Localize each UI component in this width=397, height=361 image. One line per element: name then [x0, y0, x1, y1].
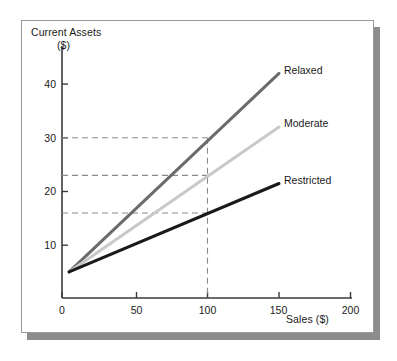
- y-tick-marks: [62, 84, 68, 245]
- x-tick-label-200: 200: [336, 304, 365, 316]
- series-line-moderate: [69, 127, 279, 272]
- series-line-relaxed: [69, 73, 279, 272]
- y-tick-label-20: 20: [34, 185, 56, 197]
- series-group: [69, 73, 279, 272]
- series-label-relaxed: Relaxed: [284, 64, 323, 76]
- y-axis-title: Current Assets: [31, 26, 101, 38]
- series-label-moderate: Moderate: [284, 117, 328, 129]
- figure-container: Current Assets ($) Sales ($) 10 20 30 40…: [0, 0, 397, 361]
- y-axis-units-label: ($): [57, 39, 70, 51]
- y-tick-label-30: 30: [34, 132, 56, 144]
- x-tick-label-50: 50: [124, 304, 149, 316]
- y-tick-label-10: 10: [34, 239, 56, 251]
- x-tick-label-100: 100: [193, 304, 222, 316]
- x-tick-label-0: 0: [52, 304, 72, 316]
- series-line-restricted: [69, 184, 279, 272]
- series-label-restricted: Restricted: [284, 174, 331, 186]
- y-tick-label-40: 40: [34, 78, 56, 90]
- x-tick-marks: [62, 292, 351, 298]
- x-tick-label-150: 150: [264, 304, 293, 316]
